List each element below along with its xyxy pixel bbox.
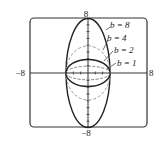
y-min-label: −8: [81, 128, 91, 138]
x-min-label: −8: [15, 68, 25, 78]
label-b8: b = 8: [110, 20, 130, 30]
x-max-label: 8: [149, 68, 154, 78]
label-b4: b = 4: [107, 33, 127, 43]
y-max-label: 8: [84, 9, 89, 19]
ellipse-plot: 8 −8 −8 8 b = 8 b = 4 b = 2 b = 1: [0, 0, 158, 142]
label-b1: b = 1: [117, 58, 137, 68]
label-b2: b = 2: [114, 45, 134, 55]
